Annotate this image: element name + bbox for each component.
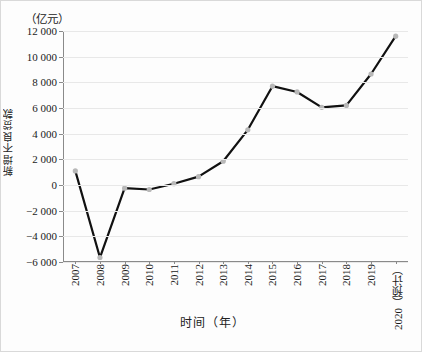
y-axis-tick-label: 4 000 — [32, 128, 57, 140]
y-axis-tickmark — [59, 108, 63, 109]
y-axis-tick-labels: 12 00010 0008 0006 0004 0002 0000−2 000−… — [1, 31, 57, 262]
x-axis-tick-label: 2009 — [119, 264, 131, 286]
y-axis-tickmark — [59, 185, 63, 186]
y-axis-tickmark — [59, 57, 63, 58]
y-axis-tickmark — [59, 236, 63, 237]
y-axis-tick-label: 8 000 — [32, 76, 57, 88]
x-axis-tick-label: 2017 — [316, 264, 328, 286]
plot-area — [63, 31, 408, 262]
gridline — [63, 57, 408, 58]
gridline — [63, 134, 408, 135]
x-axis-tick-label: 2018 — [340, 264, 352, 286]
chart-figure: （亿元） 新增不良贷款 12 00010 0008 0006 0004 0002… — [0, 0, 422, 352]
x-axis-tick-label: 2007 — [69, 264, 81, 286]
y-axis-tickmark — [59, 211, 63, 212]
x-axis-tick-label: 2019 — [365, 264, 377, 286]
y-axis-tick-label: 2 000 — [32, 153, 57, 165]
y-axis-tick-label: 10 000 — [27, 51, 57, 63]
x-axis-tick-label: 2014 — [242, 264, 254, 286]
y-axis-tickmark — [59, 31, 63, 32]
x-axis-tick-label: 2008 — [94, 264, 106, 286]
y-axis-tickmark — [59, 134, 63, 135]
gridline — [63, 236, 408, 237]
y-axis-tick-label: 0 — [52, 179, 58, 191]
x-axis-tick-label: 2012 — [193, 264, 205, 286]
y-axis-unit-label: （亿元） — [25, 10, 69, 26]
gridline — [63, 262, 408, 263]
x-axis-tick-label: 2011 — [168, 264, 180, 286]
y-axis-tickmark — [59, 82, 63, 83]
y-axis-tick-label: 12 000 — [27, 25, 57, 37]
x-axis-tick-label: 2013 — [217, 264, 229, 286]
y-axis-tick-label: −2 000 — [26, 205, 57, 217]
y-axis-tick-label: 6 000 — [32, 102, 57, 114]
gridline — [63, 108, 408, 109]
gridline — [63, 211, 408, 212]
y-axis-tickmark — [59, 262, 63, 263]
x-axis-tick-label: 2015 — [266, 264, 278, 286]
y-axis-tickmark — [59, 159, 63, 160]
gridline — [63, 185, 408, 186]
x-axis-tick-label: 2016 — [291, 264, 303, 286]
x-axis-title: 时间（年） — [1, 313, 422, 331]
plot-frame — [63, 31, 408, 262]
x-axis-tick-label: 2010 — [143, 264, 155, 286]
y-axis-tick-label: −6 000 — [26, 256, 57, 268]
gridline — [63, 82, 408, 83]
gridline — [63, 31, 408, 32]
y-axis-tick-label: −4 000 — [26, 230, 57, 242]
gridline — [63, 159, 408, 160]
